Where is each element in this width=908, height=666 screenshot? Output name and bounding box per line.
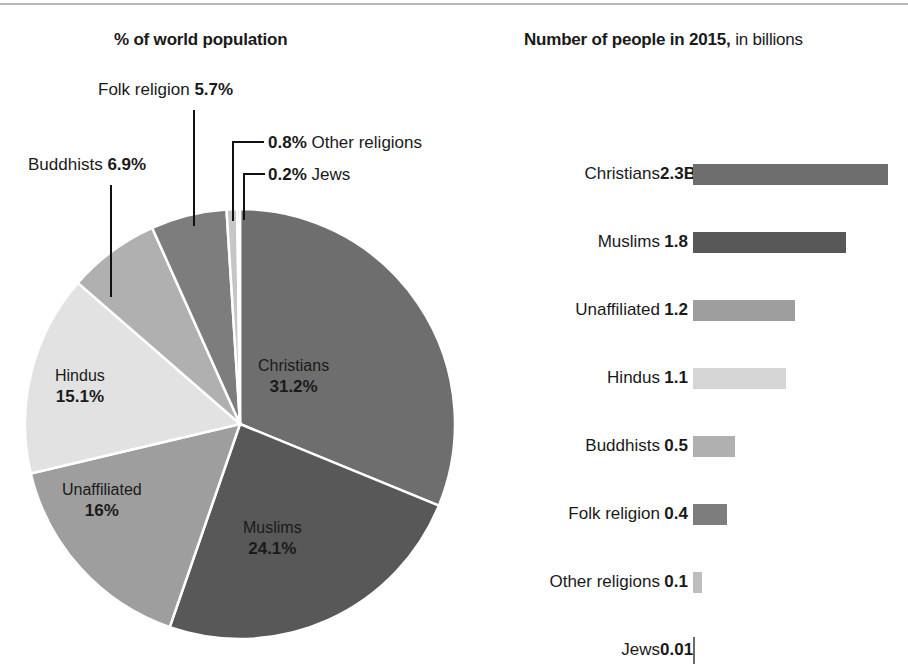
pie-chart-title: % of world population <box>114 30 287 50</box>
bar-row[interactable]: Jews0.01 <box>470 633 908 666</box>
leader-line-jews-horizontal <box>243 173 265 175</box>
pie-label-hindus-name: Hindus <box>55 367 105 384</box>
bar-category-label: Unaffiliated <box>470 293 660 327</box>
pie-label-muslims-name: Muslims <box>243 519 302 536</box>
bar-rect[interactable] <box>693 637 695 664</box>
pie-label-christians-name: Christians <box>258 357 329 374</box>
bar-rect[interactable] <box>693 368 786 389</box>
bar-category-label: Jews <box>470 633 660 666</box>
pie-label-unaffiliated: Unaffiliated 16% <box>62 480 142 521</box>
bar-rect[interactable] <box>693 572 702 593</box>
callout-jews: 0.2% Jews <box>268 165 350 185</box>
callout-folk-religion: Folk religion 5.7% <box>98 80 233 100</box>
pie-label-muslims-value: 24.1% <box>243 538 302 559</box>
bar-rect[interactable] <box>693 436 735 457</box>
bar-row[interactable]: Christians2.3B <box>470 157 908 191</box>
pie-label-hindus-value: 15.1% <box>55 386 105 407</box>
callout-other-value: 0.8% <box>268 133 307 152</box>
leader-line-jews-vertical <box>243 173 245 220</box>
pie-label-hindus: Hindus 15.1% <box>55 366 105 407</box>
leader-line-buddhists <box>110 185 112 297</box>
bar-value-label: 1.8 <box>660 225 688 259</box>
pie-slices <box>25 209 455 639</box>
callout-buddhists-value: 6.9% <box>107 155 146 174</box>
bar-title-light: in billions <box>731 30 803 49</box>
bar-value-label: 1.1 <box>660 361 688 395</box>
bar-row[interactable]: Buddhists0.5 <box>470 429 908 463</box>
bar-category-label: Folk religion <box>470 497 660 531</box>
bar-row[interactable]: Other religions0.1 <box>470 565 908 599</box>
bar-row[interactable]: Folk religion0.4 <box>470 497 908 531</box>
bar-category-label: Other religions <box>470 565 660 599</box>
bar-row[interactable]: Unaffiliated1.2 <box>470 293 908 327</box>
bar-value-label: 1.2 <box>660 293 688 327</box>
bar-rect[interactable] <box>693 164 888 185</box>
bar-row[interactable]: Muslims1.8 <box>470 225 908 259</box>
bar-value-label: 2.3B <box>660 157 688 191</box>
bar-category-label: Muslims <box>470 225 660 259</box>
leader-line-other-religions-horizontal <box>232 141 264 143</box>
callout-other-religions: 0.8% Other religions <box>268 133 422 153</box>
callout-jews-name: Jews <box>307 165 350 184</box>
pie-label-muslims: Muslims 24.1% <box>243 518 302 559</box>
pie-label-christians: Christians 31.2% <box>258 356 329 397</box>
callout-jews-value: 0.2% <box>268 165 307 184</box>
bar-value-label: 0.5 <box>660 429 688 463</box>
bar-category-label: Buddhists <box>470 429 660 463</box>
bar-rect[interactable] <box>693 232 846 253</box>
top-divider-rule <box>0 3 908 5</box>
bar-category-label: Hindus <box>470 361 660 395</box>
leader-line-folk-religion <box>193 110 195 226</box>
pie-label-unaffiliated-name: Unaffiliated <box>62 481 142 498</box>
leader-line-other-religions-vertical <box>232 141 234 221</box>
callout-other-name: Other religions <box>307 133 422 152</box>
callout-folk-name: Folk religion <box>98 80 194 99</box>
bar-value-label: 0.4 <box>660 497 688 531</box>
bar-row[interactable]: Hindus1.1 <box>470 361 908 395</box>
bar-category-label: Christians <box>470 157 660 191</box>
bar-rect[interactable] <box>693 300 795 321</box>
pie-label-unaffiliated-value: 16% <box>62 500 142 521</box>
callout-folk-value: 5.7% <box>194 80 233 99</box>
bar-rect[interactable] <box>693 504 727 525</box>
bar-value-label: 0.1 <box>660 565 688 599</box>
bar-value-label: 0.01 <box>660 633 688 666</box>
callout-buddhists: Buddhists 6.9% <box>28 155 146 175</box>
bar-title-bold: Number of people in 2015, <box>524 30 731 49</box>
bar-chart-title: Number of people in 2015, in billions <box>524 30 803 50</box>
callout-buddhists-name: Buddhists <box>28 155 107 174</box>
bar-chart: Christians2.3BMuslims1.8Unaffiliated1.2H… <box>470 150 908 666</box>
pie-label-christians-value: 31.2% <box>258 376 329 397</box>
